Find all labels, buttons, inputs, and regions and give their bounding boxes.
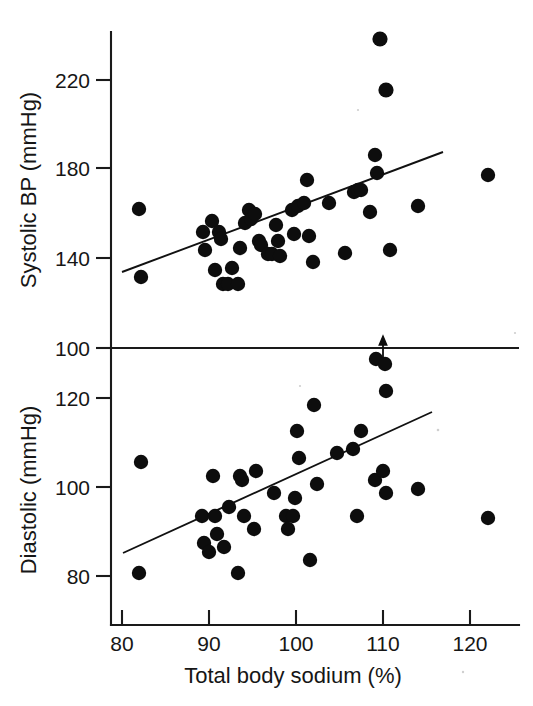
data-point <box>202 545 216 559</box>
systolic-y-axis-title: Systolic BP (mmHg) <box>16 92 41 288</box>
systolic-ytick-label-140: 140 <box>55 247 90 270</box>
diastolic-ytick-label-100: 100 <box>55 476 90 499</box>
data-point <box>411 199 425 213</box>
bp-sodium-figure-svg: 220 180 140 100 Systolic BP (mmHg) <box>0 0 533 706</box>
diastolic-regression-line <box>123 412 432 553</box>
data-point <box>481 511 495 525</box>
x-axis-title: Total body sodium (%) <box>184 663 402 688</box>
data-point <box>281 522 295 536</box>
data-point <box>210 527 224 541</box>
data-point <box>363 205 377 219</box>
data-point <box>198 243 212 257</box>
data-point <box>247 522 261 536</box>
data-point <box>354 424 368 438</box>
data-point <box>322 196 336 210</box>
data-point <box>206 469 220 483</box>
data-point <box>273 249 287 263</box>
data-point <box>208 263 222 277</box>
data-point <box>134 455 148 469</box>
data-point <box>338 246 352 260</box>
data-point <box>287 227 301 241</box>
data-point <box>481 168 495 182</box>
data-point <box>376 464 390 478</box>
data-point <box>267 486 281 500</box>
xtick-label-100: 100 <box>278 632 313 655</box>
data-point <box>269 218 283 232</box>
data-point <box>286 509 300 523</box>
diastolic-panel: 120 100 80 Diastolic (mmHg) <box>16 336 519 688</box>
data-point <box>354 183 368 197</box>
data-point <box>368 148 382 162</box>
data-point <box>288 491 302 505</box>
systolic-data-points <box>132 31 495 291</box>
data-point <box>303 553 317 567</box>
systolic-ytick-label-180: 180 <box>55 157 90 180</box>
data-point <box>379 486 393 500</box>
xtick-label-110: 110 <box>366 632 399 655</box>
data-point <box>350 509 364 523</box>
data-point <box>217 540 231 554</box>
diastolic-ytick-label-80: 80 <box>67 565 90 588</box>
systolic-ytick-label-100: 100 <box>55 337 90 360</box>
data-point <box>372 31 387 46</box>
data-point <box>233 241 247 255</box>
data-point <box>302 229 316 243</box>
data-point <box>330 446 344 460</box>
data-point <box>231 277 245 291</box>
systolic-ytick-label-220: 220 <box>55 69 90 92</box>
data-point <box>208 509 222 523</box>
data-point <box>306 255 320 269</box>
data-point <box>134 270 148 284</box>
data-point <box>132 202 146 216</box>
data-point <box>214 232 228 246</box>
figure-container: 220 180 140 100 Systolic BP (mmHg) <box>0 0 533 706</box>
data-point <box>383 243 397 257</box>
data-point <box>411 482 425 496</box>
diastolic-y-axis-title: Diastolic (mmHg) <box>16 406 41 575</box>
data-point <box>231 566 245 580</box>
data-point <box>300 173 314 187</box>
systolic-panel: 220 180 140 100 Systolic BP (mmHg) <box>16 31 495 360</box>
data-point <box>379 384 393 398</box>
data-point <box>310 477 324 491</box>
data-point <box>297 196 311 210</box>
xtick-label-120: 120 <box>452 632 487 655</box>
data-point <box>307 398 321 412</box>
data-point <box>249 464 263 478</box>
xtick-label-80: 80 <box>110 632 133 655</box>
data-point <box>195 509 209 523</box>
data-point <box>237 509 251 523</box>
data-point <box>290 424 304 438</box>
data-point <box>248 207 262 221</box>
data-point <box>235 473 249 487</box>
data-point <box>378 82 393 97</box>
data-point <box>346 442 360 456</box>
diastolic-ytick-label-120: 120 <box>55 387 90 410</box>
xtick-label-90: 90 <box>197 632 220 655</box>
data-point <box>370 166 384 180</box>
data-point <box>271 234 285 248</box>
data-point <box>292 451 306 465</box>
data-point <box>225 261 239 275</box>
data-point <box>132 566 146 580</box>
data-point <box>222 500 236 514</box>
data-point <box>378 357 392 371</box>
